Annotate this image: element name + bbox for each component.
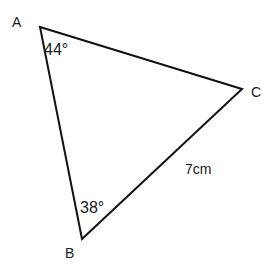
angle-label-b: 38° (80, 200, 104, 216)
vertex-label-c: C (251, 85, 261, 99)
angle-label-a: 44° (44, 42, 68, 58)
triangle-diagram (0, 0, 271, 277)
vertex-label-a: A (12, 15, 21, 29)
side-label-bc: 7cm (185, 162, 211, 176)
triangle-abc (40, 27, 242, 239)
vertex-label-b: B (65, 246, 74, 260)
